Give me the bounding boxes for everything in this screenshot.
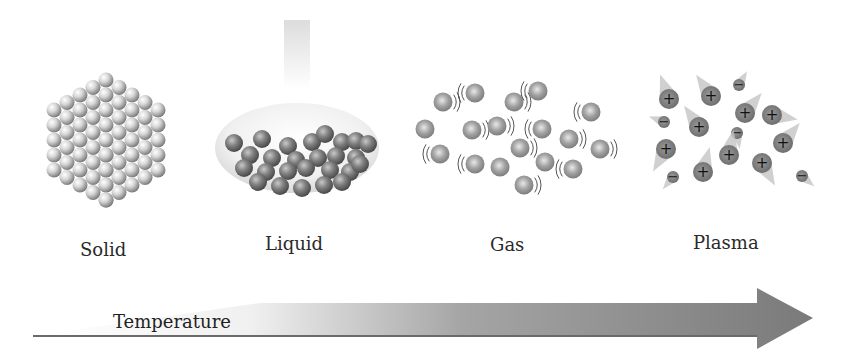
motion-arc-icon — [529, 122, 531, 137]
plus-icon: + — [723, 146, 736, 164]
solid-atom — [99, 133, 114, 148]
states-of-matter-diagram: ++−++−+−++++−+− — [0, 0, 853, 362]
gas-molecule — [591, 140, 610, 159]
solid-atom — [73, 88, 88, 103]
plus-icon: + — [766, 106, 779, 124]
plus-icon: + — [756, 154, 769, 172]
solid-atom — [112, 185, 127, 200]
solid-atom — [99, 193, 114, 208]
gas-particles-illustration — [416, 81, 617, 194]
solid-atom — [125, 148, 140, 163]
gas-molecule — [515, 176, 534, 195]
solid-atom — [99, 163, 114, 178]
plus-icon: + — [777, 134, 790, 152]
gas-molecule — [582, 103, 601, 122]
plus-icon: + — [693, 118, 706, 136]
solid-atom — [73, 133, 88, 148]
minus-icon: − — [668, 169, 679, 184]
gas-molecule — [416, 120, 435, 139]
solid-lattice-illustration — [47, 73, 166, 208]
solid-atom — [73, 163, 88, 178]
solid-atom — [112, 80, 127, 95]
solid-atom — [112, 125, 127, 140]
motion-arc-icon — [458, 83, 461, 102]
temperature-label: Temperature — [113, 311, 231, 332]
solid-atom — [86, 185, 101, 200]
solid-atom — [151, 103, 166, 118]
plus-icon: + — [663, 90, 676, 108]
gas-molecule — [536, 153, 555, 172]
solid-atom — [60, 140, 75, 155]
liquid-molecule — [249, 173, 267, 191]
solid-atom — [86, 125, 101, 140]
motion-arc-icon — [538, 175, 541, 194]
gas-molecule — [560, 130, 579, 149]
flask-neck — [284, 20, 310, 90]
liquid-molecule — [293, 179, 311, 197]
solid-atom — [138, 155, 153, 170]
plus-icon: + — [697, 163, 710, 181]
solid-atom — [86, 140, 101, 155]
solid-atom — [60, 170, 75, 185]
solid-atom — [47, 163, 62, 178]
liquid-molecule — [359, 135, 377, 153]
solid-atom — [112, 155, 127, 170]
solid-atom — [73, 178, 88, 193]
motion-arc-icon — [614, 139, 617, 158]
minus-icon: − — [734, 77, 745, 92]
state-label-plasma: Plasma — [693, 232, 759, 253]
solid-atom — [86, 170, 101, 185]
plus-icon: + — [705, 87, 718, 105]
motion-arc-icon — [454, 95, 456, 110]
motion-arc-icon — [611, 142, 613, 157]
gas-molecule — [511, 139, 530, 158]
solid-atom — [112, 110, 127, 125]
gas-molecule — [463, 121, 482, 140]
motion-arc-icon — [560, 162, 562, 177]
motion-arc-icon — [458, 154, 461, 173]
solid-atom — [125, 133, 140, 148]
motion-arc-icon — [535, 178, 537, 193]
gas-molecule — [505, 93, 524, 112]
solid-atom — [60, 110, 75, 125]
solid-atom — [151, 133, 166, 148]
solid-atom — [138, 95, 153, 110]
solid-atom — [47, 148, 62, 163]
motion-arc-icon — [583, 129, 586, 148]
solid-atom — [60, 95, 75, 110]
solid-atom — [138, 110, 153, 125]
liquid-molecule — [297, 159, 315, 177]
solid-atom — [60, 155, 75, 170]
solid-atom — [73, 118, 88, 133]
motion-arc-icon — [462, 86, 464, 101]
gas-molecule — [466, 84, 485, 103]
solid-atom — [112, 95, 127, 110]
solid-atom — [99, 148, 114, 163]
solid-atom — [125, 88, 140, 103]
gas-molecule — [529, 82, 548, 101]
solid-atom — [138, 170, 153, 185]
solid-atom — [125, 178, 140, 193]
solid-atom — [47, 118, 62, 133]
solid-atom — [151, 118, 166, 133]
motion-arc-icon — [423, 144, 426, 163]
liquid-molecule — [333, 173, 351, 191]
plus-icon: + — [739, 104, 752, 122]
solid-atom — [112, 170, 127, 185]
solid-atom — [112, 140, 127, 155]
gas-molecule — [491, 158, 510, 177]
liquid-molecule — [351, 155, 369, 173]
state-label-gas: Gas — [490, 234, 524, 255]
solid-atom — [60, 125, 75, 140]
minus-icon: − — [659, 114, 670, 129]
solid-atom — [99, 103, 114, 118]
liquid-molecule — [316, 125, 334, 143]
liquid-molecule — [235, 159, 253, 177]
solid-atom — [151, 148, 166, 163]
motion-arc-icon — [578, 105, 580, 120]
motion-arc-icon — [483, 123, 485, 138]
motion-arc-icon — [531, 141, 533, 156]
solid-atom — [125, 163, 140, 178]
liquid-molecule — [315, 176, 333, 194]
motion-arc-icon — [580, 132, 582, 147]
